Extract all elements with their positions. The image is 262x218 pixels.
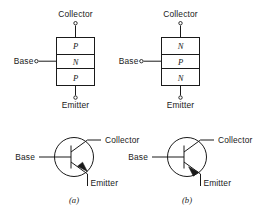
panel-b-block-base-label: Base bbox=[119, 56, 139, 66]
panel-a-symbol-base-label: Base bbox=[15, 152, 35, 162]
panel-a-block-collector-label: Collector bbox=[58, 9, 92, 19]
panel-b-emitter-arrowhead-out bbox=[189, 167, 199, 176]
panel-b-block-collector-terminal-dot bbox=[179, 22, 182, 25]
panel-a-circuit-symbol: Collector Base Emitter (a) bbox=[15, 135, 139, 205]
transistor-figure: Collector P N P Base Emitter Collector bbox=[0, 0, 262, 218]
panel-a-symbol-collector-label: Collector bbox=[105, 135, 139, 145]
panel-b-block-diagram: Collector N P N Base Emitter bbox=[119, 9, 200, 110]
panel-b-circuit-symbol: Collector Base Emitter (b) bbox=[128, 135, 252, 205]
panel-b-caption: (b) bbox=[182, 195, 192, 205]
panel-a-block-collector-terminal-dot bbox=[74, 22, 77, 25]
panel-b-symbol-emitter-label: Emitter bbox=[204, 178, 232, 188]
panel-b-symbol-collector-branch bbox=[184, 140, 201, 152]
panel-a-layer-bottom-label: P bbox=[72, 73, 79, 83]
panel-a-layer-middle-label: N bbox=[72, 57, 80, 67]
panel-b-block-emitter-label: Emitter bbox=[167, 100, 195, 110]
panel-b-layer-middle-label: P bbox=[177, 57, 184, 67]
figure-root: Collector P N P Base Emitter Collector bbox=[0, 0, 262, 218]
panel-b-symbol-base-label: Base bbox=[128, 152, 148, 162]
panel-a-block-diagram: Collector P N P Base Emitter bbox=[14, 9, 95, 110]
panel-a-symbol-collector-branch bbox=[71, 140, 88, 152]
panel-a-caption: (a) bbox=[69, 195, 79, 205]
panel-b-layer-bottom-label: N bbox=[177, 73, 185, 83]
panel-b-block-collector-label: Collector bbox=[163, 9, 197, 19]
panel-a-symbol-emitter-label: Emitter bbox=[91, 178, 119, 188]
panel-a-layer-top-label: P bbox=[72, 41, 79, 51]
panel-b-symbol-collector-label: Collector bbox=[218, 135, 252, 145]
panel-a-block-base-label: Base bbox=[14, 56, 34, 66]
panel-a-block-base-terminal-dot bbox=[35, 60, 38, 63]
panel-b-block-base-terminal-dot bbox=[140, 60, 143, 63]
panel-b-layer-top-label: N bbox=[177, 41, 185, 51]
panel-a-block-emitter-label: Emitter bbox=[62, 100, 90, 110]
